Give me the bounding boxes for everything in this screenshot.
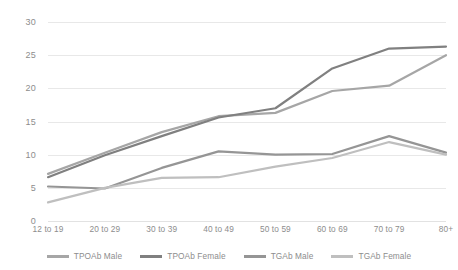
legend-swatch-icon (331, 255, 353, 258)
series-line (48, 55, 446, 174)
legend-swatch-icon (244, 255, 266, 258)
y-axis-tick-label: 30 (26, 17, 36, 27)
x-axis-tick-label: 20 to 29 (89, 224, 120, 234)
legend-label: TPOAb Male (74, 251, 123, 261)
legend-label: TPOAb Female (167, 251, 225, 261)
legend-item[interactable]: TGAb Male (244, 251, 314, 261)
legend-swatch-icon (140, 255, 162, 258)
y-axis-labels: 051015202530 (0, 0, 44, 243)
legend-label: TGAb Male (271, 251, 314, 261)
series-lines (48, 22, 446, 221)
x-axis-tick-label: 30 to 39 (146, 224, 177, 234)
x-axis-tick-label: 80+ (439, 224, 453, 234)
y-axis-tick-label: 25 (26, 50, 36, 60)
line-chart: 051015202530 12 to 1920 to 2930 to 3940 … (0, 0, 458, 270)
x-axis-tick-label: 40 to 49 (203, 224, 234, 234)
x-axis-tick-label: 60 to 69 (317, 224, 348, 234)
y-axis-tick-label: 15 (26, 117, 36, 127)
legend-item[interactable]: TGAb Female (331, 251, 411, 261)
gridline (48, 221, 446, 222)
x-axis-labels: 12 to 1920 to 2930 to 3940 to 4950 to 59… (48, 224, 446, 242)
legend-item[interactable]: TPOAb Male (47, 251, 123, 261)
x-axis-tick-label: 70 to 79 (374, 224, 405, 234)
x-axis-tick-label: 50 to 59 (260, 224, 291, 234)
series-line (48, 47, 446, 178)
y-axis-tick-label: 20 (26, 83, 36, 93)
legend-item[interactable]: TPOAb Female (140, 251, 225, 261)
legend-label: TGAb Female (358, 251, 411, 261)
chart-legend: TPOAb MaleTPOAb FemaleTGAb MaleTGAb Fema… (0, 248, 458, 264)
plot-area (48, 22, 446, 221)
legend-swatch-icon (47, 255, 69, 258)
y-axis-tick-label: 10 (26, 150, 36, 160)
x-axis-tick-label: 12 to 19 (33, 224, 64, 234)
y-axis-tick-label: 5 (31, 183, 36, 193)
